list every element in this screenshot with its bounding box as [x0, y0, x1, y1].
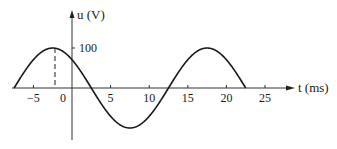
x-tick-label: −5 [27, 91, 40, 105]
sine-voltage-chart: u (V) t (ms) 100 −50510152025 [0, 0, 337, 149]
x-tick-label: 25 [259, 91, 271, 105]
y-axis-label: u (V) [77, 7, 105, 22]
x-tick-label: 10 [143, 91, 155, 105]
x-axis-arrow-icon [286, 86, 295, 91]
y-tick-label-100: 100 [79, 41, 97, 55]
y-axis-arrow-icon [70, 10, 75, 18]
x-tick-label: 0 [60, 91, 66, 105]
x-tick-label: 15 [182, 91, 194, 105]
x-tick-label: 5 [108, 91, 114, 105]
x-tick-label: 20 [220, 91, 232, 105]
x-axis-label: t (ms) [298, 80, 329, 95]
